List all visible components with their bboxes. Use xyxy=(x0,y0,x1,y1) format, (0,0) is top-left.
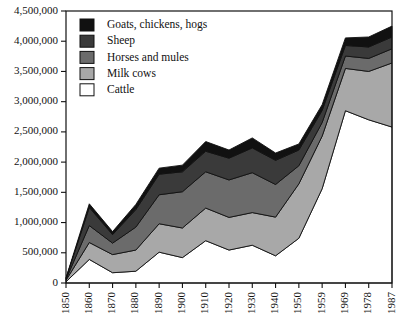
x-tick-label: 1978 xyxy=(361,292,373,315)
legend-label: Horses and mules xyxy=(107,51,189,63)
x-tick-label: 1910 xyxy=(198,292,210,315)
y-tick-label: 0 xyxy=(53,276,59,288)
y-tick-label: 500,000 xyxy=(22,245,58,257)
legend-swatch xyxy=(80,19,94,31)
legend-label: Goats, chickens, hogs xyxy=(107,18,208,31)
x-tick-label: 1940 xyxy=(268,292,280,315)
legend-label: Milk cows xyxy=(107,67,156,79)
legend-swatch xyxy=(80,68,94,80)
x-tick-label: 1959 xyxy=(315,292,327,315)
y-tick-label: 2,500,000 xyxy=(14,124,59,136)
x-tick-label: 1850 xyxy=(59,292,71,315)
legend-swatch xyxy=(80,35,94,47)
y-tick-label: 3,500,000 xyxy=(14,64,59,76)
x-axis: 1850186018701880189019001910192019301940… xyxy=(59,283,397,314)
stacked-area-chart: 0500,0001,000,0001,500,0002,000,0002,500… xyxy=(0,0,401,319)
x-tick-label: 1987 xyxy=(385,292,397,315)
y-tick-label: 1,500,000 xyxy=(14,185,59,197)
x-tick-label: 1950 xyxy=(291,292,303,315)
legend-swatch xyxy=(80,51,94,63)
x-tick-label: 1930 xyxy=(245,292,257,315)
y-tick-label: 2,000,000 xyxy=(14,155,59,167)
legend-label: Cattle xyxy=(107,83,134,95)
x-tick-label: 1900 xyxy=(175,292,187,315)
x-tick-label: 1880 xyxy=(128,292,140,315)
legend-label: Sheep xyxy=(107,34,135,47)
legend-swatch xyxy=(80,84,94,96)
y-tick-label: 4,500,000 xyxy=(14,4,59,16)
chart-canvas: 0500,0001,000,0001,500,0002,000,0002,500… xyxy=(0,0,401,319)
y-tick-label: 3,000,000 xyxy=(14,94,59,106)
y-tick-label: 1,000,000 xyxy=(14,215,59,227)
x-tick-label: 1870 xyxy=(105,292,117,315)
y-tick-label: 4,000,000 xyxy=(14,34,59,46)
x-tick-label: 1890 xyxy=(152,292,164,315)
y-axis: 0500,0001,000,0001,500,0002,000,0002,500… xyxy=(14,4,66,288)
x-tick-label: 1860 xyxy=(82,292,94,315)
x-tick-label: 1969 xyxy=(338,292,350,315)
chart-legend: Goats, chickens, hogsSheepHorses and mul… xyxy=(80,18,208,96)
x-tick-label: 1920 xyxy=(222,292,234,315)
area-bands xyxy=(66,26,392,283)
